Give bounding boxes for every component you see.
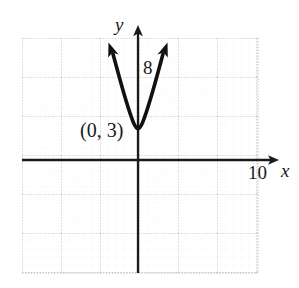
y-axis-label: y [115, 15, 123, 34]
vertex-label: (0, 3) [80, 120, 123, 140]
coordinate-plane [0, 0, 299, 288]
parabola-figure: y x 10 8 (0, 3) [0, 0, 299, 288]
grid-major [22, 38, 258, 273]
y-axis-tick-label-8: 8 [143, 58, 153, 77]
x-axis-tick-label-10: 10 [248, 163, 267, 182]
x-axis-label: x [281, 161, 289, 180]
